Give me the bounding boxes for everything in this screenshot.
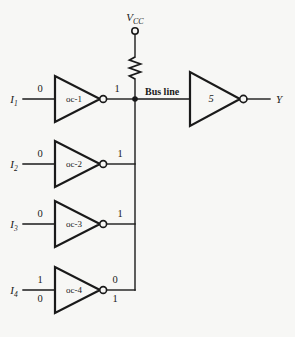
circuit-diagram: VCC Bus line I1 0 oc-1 1 I2 (0, 0, 295, 337)
gate-label-1: oc-1 (66, 94, 82, 104)
output-value-1: 1 (114, 83, 119, 94)
driver-oc-4: I4 1 0 oc-4 0 1 (9, 267, 135, 313)
output-value-4-top: 0 (112, 274, 117, 285)
input-port-label-4: I4 (9, 284, 18, 299)
circuit-canvas: VCC Bus line I1 0 oc-1 1 I2 (0, 0, 295, 337)
inverter-bubble-1 (100, 96, 107, 103)
bus-line: Bus line (132, 86, 180, 290)
bus-line-label: Bus line (145, 86, 180, 97)
pullup-resistor (130, 57, 141, 79)
input-value-2: 0 (37, 148, 42, 159)
inverter-bubble-4 (100, 287, 107, 294)
gate-label-3: oc-3 (66, 219, 82, 229)
driver-oc-1: I1 0 oc-1 1 (9, 76, 135, 122)
driver-oc-3: I3 0 oc-3 1 (9, 201, 135, 247)
output-inverter-bubble (240, 95, 247, 102)
input-port-label-2: I2 (9, 158, 18, 173)
inverter-bubble-2 (100, 161, 107, 168)
input-value-1: 0 (37, 83, 42, 94)
input-value-3: 0 (37, 208, 42, 219)
vcc-branch: VCC (126, 11, 144, 99)
vcc-label: VCC (126, 11, 144, 26)
output-value-4-bottom: 1 (112, 293, 117, 304)
output-value-3: 1 (117, 208, 122, 219)
input-value-4-top: 1 (37, 274, 42, 285)
output-inverter-triangle (190, 72, 240, 126)
gate-label-4: oc-4 (66, 285, 82, 295)
output-gate-label: 5 (208, 93, 213, 104)
output-port-label-y: Y (276, 93, 284, 105)
output-value-2: 1 (117, 148, 122, 159)
input-port-label-1: I1 (9, 93, 17, 108)
gate-label-2: oc-2 (66, 159, 82, 169)
output-stage: 5 Y (135, 72, 284, 126)
input-value-4-bottom: 0 (37, 293, 42, 304)
vcc-terminal (132, 28, 138, 34)
inverter-bubble-3 (100, 221, 107, 228)
driver-oc-2: I2 0 oc-2 1 (9, 141, 135, 187)
input-port-label-3: I3 (9, 218, 18, 233)
